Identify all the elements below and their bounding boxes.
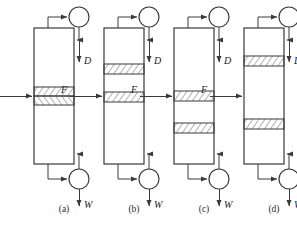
column-shell-d [244, 28, 284, 164]
bottoms-line-b [118, 164, 137, 179]
bottoms-line-c [188, 164, 207, 179]
condenser-b [139, 7, 159, 27]
reboiler-a [69, 169, 89, 189]
condenser-a [69, 7, 89, 27]
reflux-line-b [147, 27, 149, 40]
distillation-diagram: DFW(a)DFW(b)DFW(c)DFW(d) [0, 0, 297, 227]
reflux-line-d [287, 27, 289, 40]
reboiler-d [279, 169, 297, 189]
feed-label-d: F [200, 84, 208, 95]
reboiler-return-line-a [77, 154, 79, 169]
caption-d: (d) [268, 204, 279, 215]
reboiler-b [139, 169, 159, 189]
caption-b: (b) [128, 204, 139, 215]
reboiler-c [209, 169, 229, 189]
vapor-line-b [118, 17, 137, 28]
feed-label-b: F [60, 84, 68, 95]
vapor-line-c [188, 17, 207, 28]
packed-section-a-1 [34, 87, 74, 96]
packed-section-d-2 [244, 119, 284, 129]
caption-c: (c) [199, 204, 210, 215]
packed-section-b-1 [104, 64, 144, 74]
reboiler-return-line-d [287, 154, 289, 169]
diagram-body: DFW(a)DFW(b)DFW(c)DFW(d) [0, 7, 297, 215]
packed-section-d-1 [244, 56, 284, 66]
packed-section-c-1 [174, 91, 214, 101]
condenser-c [209, 7, 229, 27]
packed-section-b-2 [104, 92, 144, 102]
reboiler-return-line-c [217, 154, 219, 169]
distillate-label-b: D [153, 55, 162, 66]
bottoms-label-a: W [84, 199, 94, 210]
bottoms-line-d [258, 164, 277, 179]
feed-label-c: F [130, 84, 138, 95]
reboiler-return-line-b [147, 154, 149, 169]
vapor-line-a [48, 17, 67, 28]
distillate-label-d: D [293, 55, 297, 66]
packed-section-c-2 [174, 123, 214, 133]
bottoms-label-d: W [294, 199, 297, 210]
bottoms-line-a [48, 164, 67, 179]
distillate-label-a: D [83, 55, 92, 66]
bottoms-label-b: W [154, 199, 164, 210]
packed-section-a-2 [34, 96, 74, 105]
vapor-line-d [258, 17, 277, 28]
bottoms-label-c: W [224, 199, 234, 210]
distillate-label-c: D [223, 55, 232, 66]
reflux-line-a [77, 27, 79, 40]
condenser-d [279, 7, 297, 27]
reflux-line-c [217, 27, 219, 40]
caption-a: (a) [59, 204, 70, 215]
figure-canvas: DFW(a)DFW(b)DFW(c)DFW(d) [0, 0, 297, 227]
